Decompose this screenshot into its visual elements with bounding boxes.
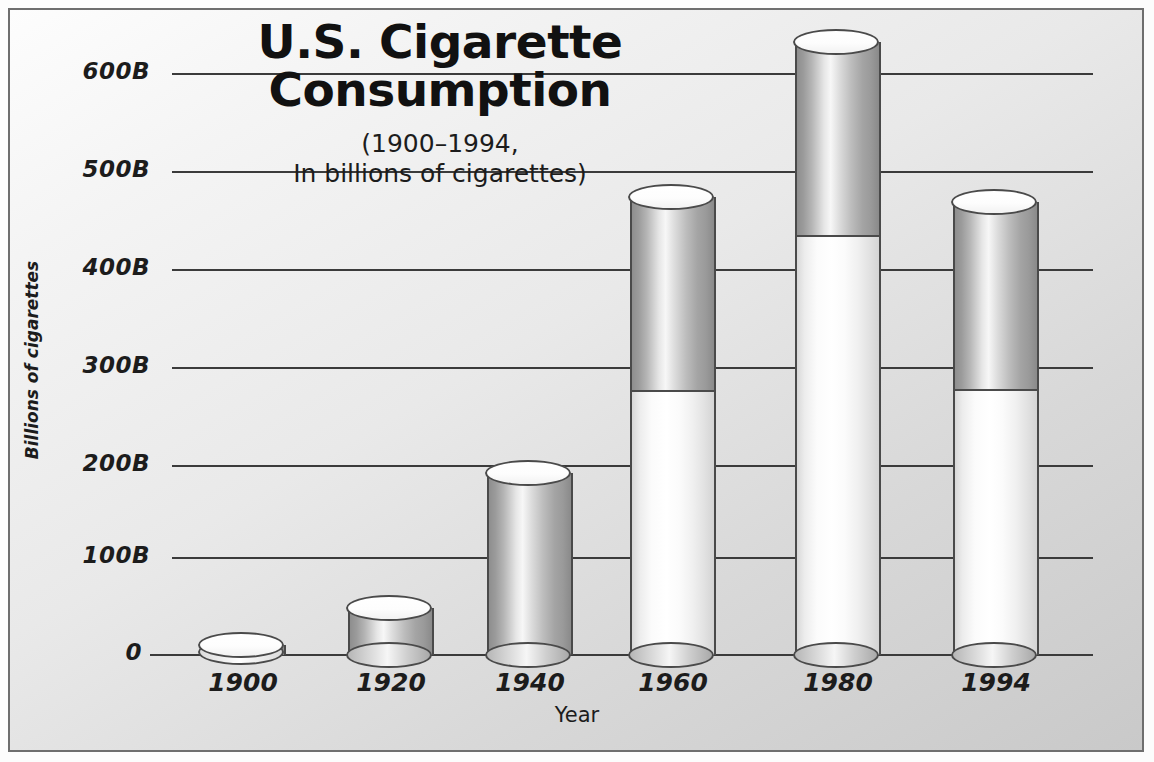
bar-1920[interactable] bbox=[348, 608, 434, 655]
ytick-label-500: 500B bbox=[40, 156, 150, 182]
chart-subtitle-line-2: In billions of cigarettes) bbox=[230, 159, 650, 190]
bar-1980-base-ellipse bbox=[793, 642, 879, 668]
bar-1940-body bbox=[487, 473, 573, 655]
chart-subtitle-line-1: (1900–1994, bbox=[230, 129, 650, 160]
bar-1980-filter-segment bbox=[797, 236, 879, 655]
bar-1960-cap-ellipse bbox=[628, 184, 714, 210]
xtick-label-1960: 1960 bbox=[610, 668, 736, 697]
bar-1994-tobacco-segment bbox=[955, 202, 1037, 390]
bar-1980[interactable] bbox=[795, 42, 881, 655]
ytick-label-300: 300B bbox=[40, 352, 150, 378]
bar-1960-filter-segment bbox=[632, 391, 714, 655]
xtick-label-1994: 1994 bbox=[933, 668, 1059, 697]
bar-1920-cap-ellipse bbox=[346, 595, 432, 621]
plot-area: 600B 500B 400B 300B 200B 100B 0 Billions… bbox=[0, 0, 1154, 762]
bar-1994-body bbox=[953, 202, 1039, 655]
bar-1960[interactable] bbox=[630, 197, 716, 655]
bar-1940[interactable] bbox=[487, 473, 573, 655]
cigarette-consumption-chart: 600B 500B 400B 300B 200B 100B 0 Billions… bbox=[0, 0, 1154, 762]
gridline-500 bbox=[172, 171, 1093, 173]
bar-1994-cap-ellipse bbox=[951, 189, 1037, 215]
bar-1994-filter-line bbox=[955, 389, 1037, 391]
ytick-label-100: 100B bbox=[40, 542, 150, 568]
bar-1980-filter-line bbox=[797, 235, 879, 237]
x-axis-title: Year bbox=[0, 703, 1154, 727]
bar-1920-base-ellipse bbox=[346, 642, 432, 668]
title-block: U.S. Cigarette Consumption (1900–1994, I… bbox=[230, 18, 650, 190]
bar-1900-cap-ellipse bbox=[198, 632, 284, 658]
gridline-600 bbox=[172, 73, 1093, 75]
bar-1994-base-ellipse bbox=[951, 642, 1037, 668]
bar-1980-cap-ellipse bbox=[793, 29, 879, 55]
chart-subtitle: (1900–1994, In billions of cigarettes) bbox=[230, 129, 650, 190]
bar-1960-body bbox=[630, 197, 716, 655]
ytick-label-0: 0 bbox=[40, 639, 142, 665]
bar-1940-tobacco-segment bbox=[489, 473, 571, 655]
bar-1940-base-ellipse bbox=[485, 642, 571, 668]
ytick-label-600: 600B bbox=[40, 58, 150, 84]
chart-title: U.S. Cigarette Consumption bbox=[230, 18, 650, 115]
xtick-label-1900: 1900 bbox=[180, 668, 306, 697]
bar-1960-base-ellipse bbox=[628, 642, 714, 668]
bar-1994[interactable] bbox=[953, 202, 1039, 655]
xtick-label-1980: 1980 bbox=[775, 668, 901, 697]
xtick-label-1940: 1940 bbox=[467, 668, 593, 697]
bar-1980-tobacco-segment bbox=[797, 42, 879, 236]
bar-1960-tobacco-segment bbox=[632, 197, 714, 391]
chart-title-line-1: U.S. Cigarette bbox=[230, 18, 650, 66]
bar-1994-filter-segment bbox=[955, 390, 1037, 655]
bar-1960-filter-line bbox=[632, 390, 714, 392]
xtick-label-1920: 1920 bbox=[328, 668, 454, 697]
bar-1900[interactable] bbox=[200, 645, 286, 655]
y-axis-title: Billions of cigarettes bbox=[22, 240, 42, 480]
ytick-label-200: 200B bbox=[40, 450, 150, 476]
ytick-label-400: 400B bbox=[40, 254, 150, 280]
bar-1980-body bbox=[795, 42, 881, 655]
bar-1940-cap-ellipse bbox=[485, 460, 571, 486]
